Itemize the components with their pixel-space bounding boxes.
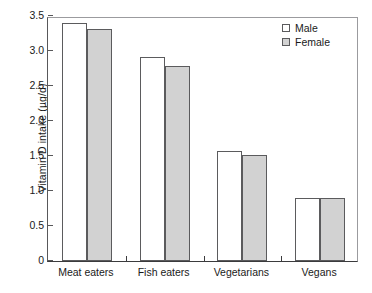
chart-figure: Vitamin D intake (µg/d) 00.51.01.52.02.5… (0, 0, 372, 293)
bar-female-vegetarians (242, 155, 267, 261)
y-tick: 3.0 (48, 50, 53, 51)
bar-female-fish-eaters (165, 66, 190, 261)
legend-item-male: Male (282, 21, 330, 35)
y-tick-label: 0 (38, 254, 44, 266)
y-tick-label: 3.5 (29, 9, 44, 21)
y-tick-label: 1.5 (29, 149, 44, 161)
legend-label-female: Female (295, 36, 330, 48)
bar-male-vegetarians (217, 151, 242, 261)
bar-female-vegans (320, 198, 345, 261)
chart-legend: MaleFemale (282, 21, 330, 49)
x-tick (204, 256, 205, 261)
y-tick-label: 2.0 (29, 114, 44, 126)
y-tick: 0 (48, 260, 53, 261)
y-tick: 2.0 (48, 120, 53, 121)
legend-swatch-male (282, 24, 290, 32)
x-axis-label-fish-eaters: Fish eaters (125, 266, 203, 278)
legend-swatch-female (282, 38, 290, 46)
bar-male-fish-eaters (140, 57, 165, 261)
legend-label-male: Male (295, 22, 318, 34)
y-tick-label: 2.5 (29, 79, 44, 91)
plot-area: 00.51.01.52.02.53.03.5 (47, 17, 358, 262)
y-tick: 1.0 (48, 190, 53, 191)
y-tick: 3.5 (48, 15, 53, 16)
y-tick: 0.5 (48, 225, 53, 226)
y-tick-label: 1.0 (29, 184, 44, 196)
bar-male-vegans (295, 198, 320, 261)
y-tick: 2.5 (48, 85, 53, 86)
x-tick (126, 256, 127, 261)
x-axis-label-meat-eaters: Meat eaters (47, 266, 125, 278)
y-tick-label: 0.5 (29, 219, 44, 231)
x-axis-label-vegetarians: Vegetarians (203, 266, 281, 278)
x-axis-label-vegans: Vegans (280, 266, 358, 278)
legend-item-female: Female (282, 35, 330, 49)
x-tick (281, 256, 282, 261)
y-tick: 1.5 (48, 155, 53, 156)
bar-female-meat-eaters (87, 29, 112, 261)
bar-male-meat-eaters (62, 23, 87, 261)
y-tick-label: 3.0 (29, 44, 44, 56)
